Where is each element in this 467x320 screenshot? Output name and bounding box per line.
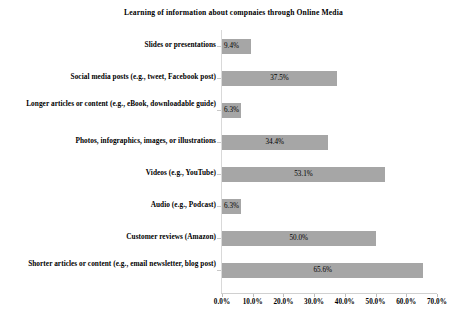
- chart-row: Shorter articles or content (e.g., email…: [0, 255, 467, 287]
- chart-row: Longer articles or content (e.g., eBook,…: [0, 95, 467, 127]
- x-axis-tick: [406, 294, 407, 297]
- y-axis-tick: [217, 238, 221, 239]
- chart-row: Videos (e.g., YouTube)53.1%: [0, 159, 467, 191]
- category-label: Customer reviews (Amazon): [0, 232, 216, 242]
- bar-value-label: 9.4%: [222, 39, 239, 54]
- x-axis-tick: [253, 294, 254, 297]
- category-label: Social media posts (e.g., tweet, Faceboo…: [0, 72, 216, 82]
- category-label: Photos, infographics, images, or illustr…: [0, 136, 216, 146]
- y-axis-tick: [217, 270, 221, 271]
- bar-value-label: 6.3%: [222, 103, 239, 118]
- chart-row: Social media posts (e.g., tweet, Faceboo…: [0, 63, 467, 95]
- bar-value-label: 65.6%: [222, 263, 423, 278]
- x-axis-tick-label: 70.0%: [417, 298, 457, 306]
- category-label: Slides or presentations: [0, 40, 216, 50]
- x-axis-tick: [437, 294, 438, 297]
- chart-row: Photos, infographics, images, or illustr…: [0, 127, 467, 159]
- x-axis: 0.0%10.0%20.0%30.0%40.0%50.0%60.0%70.0%: [0, 294, 467, 314]
- y-axis-tick: [217, 206, 221, 207]
- chart-row: Audio (e.g., Podcast)6.3%: [0, 191, 467, 223]
- y-axis-tick: [217, 46, 221, 47]
- chart-row: Customer reviews (Amazon)50.0%: [0, 223, 467, 255]
- category-label: Longer articles or content (e.g., eBook,…: [0, 99, 216, 109]
- plot-area: Slides or presentations9.4%Social media …: [0, 30, 467, 294]
- bar-value-label: 50.0%: [222, 231, 376, 246]
- bar-chart: Learning of information about compnaies …: [0, 0, 467, 320]
- bar-value-label: 6.3%: [222, 199, 239, 214]
- bar-value-label: 37.5%: [222, 71, 337, 86]
- x-axis-tick: [283, 294, 284, 297]
- category-label: Audio (e.g., Podcast): [0, 200, 216, 210]
- category-label: Shorter articles or content (e.g., email…: [0, 259, 216, 269]
- y-axis-tick: [217, 174, 221, 175]
- category-label: Videos (e.g., YouTube): [0, 168, 216, 178]
- y-axis-tick: [217, 78, 221, 79]
- x-axis-tick: [345, 294, 346, 297]
- chart-row: Slides or presentations9.4%: [0, 31, 467, 63]
- bar-value-label: 53.1%: [222, 167, 385, 182]
- chart-title: Learning of information about compnaies …: [0, 8, 467, 18]
- y-axis-tick: [217, 142, 221, 143]
- bar-value-label: 34.4%: [222, 135, 328, 150]
- y-axis-tick: [217, 110, 221, 111]
- x-axis-tick: [376, 294, 377, 297]
- x-axis-tick: [314, 294, 315, 297]
- x-axis-tick: [222, 294, 223, 297]
